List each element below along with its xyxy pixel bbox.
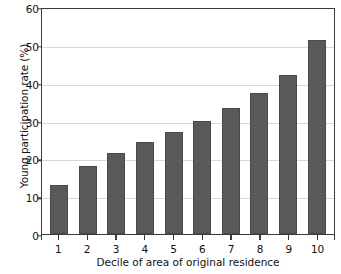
- bar: [79, 166, 97, 234]
- x-axis-tick-mark: [58, 235, 59, 240]
- bar: [250, 93, 268, 234]
- x-axis-tick-mark: [317, 235, 318, 240]
- x-axis-tick-mark: [144, 235, 145, 240]
- bar-slot: [302, 9, 331, 234]
- bar: [107, 153, 125, 234]
- x-axis-tick-mark: [87, 235, 88, 240]
- x-axis-title: Decile of area of original residence: [41, 256, 335, 268]
- x-axis-tick-mark: [173, 235, 174, 240]
- x-axis-tick-mark: [230, 235, 231, 240]
- plot-area: 0102030405060: [41, 8, 335, 235]
- bar-slot: [131, 9, 160, 234]
- x-axis-tick-label: 1: [44, 235, 73, 255]
- bar-series: [42, 9, 334, 234]
- x-axis-tick-label: 7: [217, 235, 246, 255]
- x-axis-ticks: 12345678910: [41, 235, 335, 255]
- y-axis-tick-label: 0: [5, 231, 39, 242]
- bar: [136, 142, 154, 234]
- bar-slot: [102, 9, 131, 234]
- x-axis-tick-mark: [115, 235, 116, 240]
- x-axis-tick-mark: [41, 235, 42, 240]
- x-axis-tick-label: 6: [188, 235, 217, 255]
- x-axis-tick-mark: [334, 235, 335, 240]
- y-axis-tick-label: 30: [5, 117, 39, 128]
- x-axis-tick-label: 10: [303, 235, 332, 255]
- bar: [50, 185, 68, 234]
- bar: [308, 40, 326, 234]
- x-axis-tick-label: 2: [73, 235, 102, 255]
- bar: [165, 132, 183, 234]
- y-axis-tick-label: 20: [5, 155, 39, 166]
- bar: [279, 75, 297, 234]
- y-axis-tick-label: 40: [5, 79, 39, 90]
- x-axis-tick-label: 8: [246, 235, 275, 255]
- x-axis-tick-mark: [202, 235, 203, 240]
- bar-slot: [217, 9, 246, 234]
- x-axis-tick-mark: [259, 235, 260, 240]
- bar-slot: [245, 9, 274, 234]
- y-axis-tick-label: 60: [5, 4, 39, 15]
- bar-slot: [188, 9, 217, 234]
- bar-slot: [274, 9, 303, 234]
- x-axis-tick-label: 3: [102, 235, 131, 255]
- bar: [193, 121, 211, 235]
- x-axis-tick-label: 4: [130, 235, 159, 255]
- bar: [222, 108, 240, 234]
- y-axis-tick-label: 10: [5, 193, 39, 204]
- bar-chart: Young participation rate (%) 01020304050…: [0, 0, 341, 274]
- bar-slot: [159, 9, 188, 234]
- x-axis-tick-label: 5: [159, 235, 188, 255]
- bar-slot: [45, 9, 74, 234]
- y-axis-tick-label: 50: [5, 42, 39, 53]
- x-axis-tick-mark: [288, 235, 289, 240]
- x-axis-tick-label: 9: [274, 235, 303, 255]
- bar-slot: [74, 9, 103, 234]
